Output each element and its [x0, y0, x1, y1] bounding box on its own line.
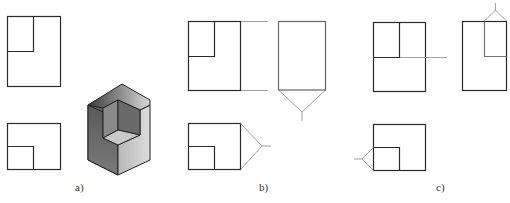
top-view [8, 124, 61, 170]
projection-diagram [0, 0, 510, 203]
top-view [374, 125, 426, 171]
panel-c [354, 3, 507, 171]
panel-b [189, 22, 326, 170]
construction-lines [354, 3, 507, 171]
front-view [374, 23, 426, 92]
side-view [279, 22, 326, 91]
isometric-solid [88, 84, 150, 175]
panel-label-c: c) [436, 181, 445, 193]
front-view [189, 22, 241, 91]
top-view [189, 124, 241, 170]
panel-a [8, 17, 61, 170]
construction-lines [241, 22, 326, 170]
front-view [8, 17, 61, 87]
panel-label-b: b) [259, 181, 268, 193]
panel-label-a: a) [75, 181, 84, 193]
notch-in-side-view [485, 22, 507, 57]
